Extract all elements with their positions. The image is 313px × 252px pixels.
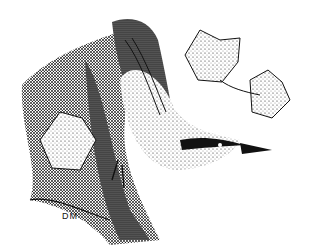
nuthatch-illustration <box>0 0 313 252</box>
illustration: DM <box>0 0 313 252</box>
artist-signature: DM <box>62 211 78 221</box>
